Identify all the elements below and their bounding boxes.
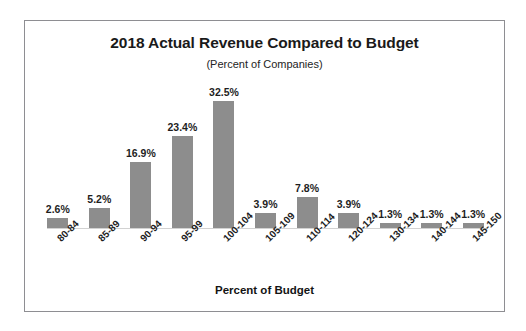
bar-value-label: 1.3% [420,208,444,220]
bar-slot: 7.8% [286,76,328,228]
tick-slot: 85-89 [79,232,121,288]
tick-slot: 120-124 [328,232,370,288]
tick-slot: 110-114 [286,232,328,288]
bar-value-label: 3.9% [337,198,361,210]
bar[interactable] [213,101,234,228]
tick-slot: 95-99 [162,232,204,288]
bar-value-label: 1.3% [378,208,402,220]
bar-value-label: 23.4% [168,121,198,133]
bar-value-label: 3.9% [254,198,278,210]
bar-value-label: 16.9% [126,147,156,159]
bar-slot: 16.9% [120,76,162,228]
bar-value-label: 2.6% [46,203,70,215]
tick-slot: 130-134 [369,232,411,288]
bar[interactable] [130,162,151,228]
tick-slot: 145-150 [452,232,494,288]
bar-slot: 5.2% [79,76,121,228]
bar-value-label: 32.5% [209,86,239,98]
bar-slot: 1.3% [369,76,411,228]
tick-slot: 140-144 [411,232,453,288]
bar-slot: 32.5% [203,76,245,228]
bar-slot: 23.4% [162,76,204,228]
bar[interactable] [297,197,318,228]
tick-slot: 90-94 [120,232,162,288]
x-axis-title: Percent of Budget [25,284,504,296]
bar-slot: 2.6% [37,76,79,228]
bar-slot: 3.9% [245,76,287,228]
chart-frame: 2018 Actual Revenue Compared to Budget (… [24,20,505,312]
tick-slot: 80-84 [37,232,79,288]
chart-title: 2018 Actual Revenue Compared to Budget [25,34,504,52]
bar-value-label: 7.8% [295,182,319,194]
tick-slot: 100-104 [203,232,245,288]
bar-slot: 3.9% [328,76,370,228]
bar[interactable] [172,136,193,228]
plot-area: 2.6%5.2%16.9%23.4%32.5%3.9%7.8%3.9%1.3%1… [37,76,494,229]
bar-value-label: 1.3% [461,208,485,220]
bar-value-label: 5.2% [87,193,111,205]
bar-slot: 1.3% [452,76,494,228]
tick-slot: 105-109 [245,232,287,288]
bar-series: 2.6%5.2%16.9%23.4%32.5%3.9%7.8%3.9%1.3%1… [37,76,494,228]
bar-slot: 1.3% [411,76,453,228]
chart-subtitle: (Percent of Companies) [25,58,504,70]
x-axis-tick-labels: 80-8485-8990-9495-99100-104105-109110-11… [37,232,494,288]
